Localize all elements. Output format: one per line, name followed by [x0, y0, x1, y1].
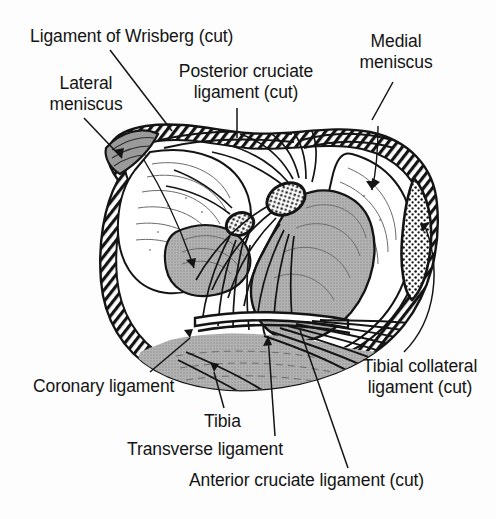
- label-tibia: Tibia: [204, 411, 241, 432]
- label-ligament-of-wrisberg: Ligament of Wrisberg (cut): [30, 26, 233, 47]
- leader-medial: [372, 82, 393, 120]
- label-anterior-cruciate-ligament: Anterior cruciate ligament (cut): [189, 470, 424, 491]
- label-coronary-ligament: Coronary ligament: [33, 376, 174, 397]
- label-tibial-collateral-ligament: Tibial collateral ligament (cut): [358, 356, 482, 398]
- label-transverse-ligament: Transverse ligament: [127, 439, 283, 460]
- label-medial-meniscus: Medial meniscus: [350, 31, 442, 73]
- label-posterior-cruciate-ligament: Posterior cruciate ligament (cut): [160, 61, 332, 103]
- label-lateral-meniscus: Lateral meniscus: [38, 73, 134, 115]
